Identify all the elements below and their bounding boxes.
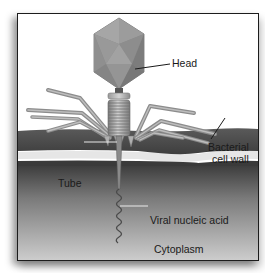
phage-head — [94, 18, 144, 89]
label-bacterial-line1: Bacterial — [208, 141, 249, 153]
cytoplasm-region — [18, 164, 259, 261]
label-viral-nucleic-acid: Viral nucleic acid — [150, 214, 229, 226]
phage-neck — [108, 88, 130, 99]
tail-sheath — [108, 100, 130, 136]
diagram-frame: Head Bacterial cell wall Tube Viral nucl… — [17, 13, 259, 261]
label-cytoplasm: Cytoplasm — [154, 243, 204, 255]
label-tube: Tube — [58, 177, 82, 189]
label-head: Head — [172, 57, 197, 69]
label-cell-wall-line2: cell wall — [212, 153, 249, 165]
